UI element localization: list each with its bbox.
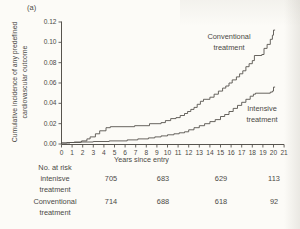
risk-value: 629 <box>215 174 227 183</box>
risk-row-conventional-label-line1: Conventional <box>12 196 98 207</box>
y-axis-title-line2: cardiovascular outcome <box>20 46 30 119</box>
risk-value: 683 <box>157 174 169 183</box>
risk-value: 92 <box>270 197 278 206</box>
risk-table-header: No. at risk <box>12 162 98 173</box>
y-axis-title-line1: Cumulative incidence of any predefined <box>10 22 20 143</box>
risk-row-intensive-label-line1: intenisve <box>12 173 98 184</box>
risk-value: 705 <box>105 174 117 183</box>
risk-value: 714 <box>105 197 117 206</box>
conventional-series-label-line2: treatment <box>188 42 270 53</box>
conventional-series-label-line1: Conventional <box>188 31 270 42</box>
risk-row-intensive-label-line2: treatment <box>12 184 98 195</box>
intensive-series-label: Intensive treatment <box>226 103 298 125</box>
intensive-series-label-line2: treatment <box>226 114 298 125</box>
intensive-series-label-line1: Intensive <box>226 103 298 114</box>
figure-panel: (a) 01234567891011121314151617181920210.… <box>0 0 300 229</box>
x-axis-title: Years since entry <box>114 155 169 164</box>
risk-value: 688 <box>157 197 169 206</box>
y-axis-title: Cumulative incidence of any predefined c… <box>9 12 31 152</box>
risk-table-labels: No. at risk intenisve treatment Conventi… <box>12 162 98 218</box>
risk-row-conventional-label-line2: treatment <box>12 207 98 218</box>
risk-value: 618 <box>215 197 227 206</box>
conventional-series-label: Conventional treatment <box>188 31 270 53</box>
risk-value: 113 <box>268 174 280 183</box>
